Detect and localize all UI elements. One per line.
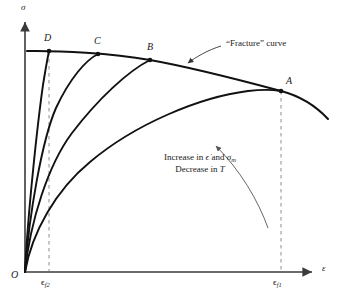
figure-canvas: [0, 0, 341, 302]
tick-label-epsilon-f1: ϵf1: [273, 278, 282, 287]
stress-strain-figure: σ ε O D C B A ϵf2 ϵf1 “Fracture” curve I…: [0, 0, 341, 302]
tick-label-epsilon-f2: ϵf2: [41, 278, 50, 287]
stress-strain-curve-a: [25, 90, 281, 272]
annotation-decrease-text: Decrease in: [175, 164, 219, 174]
origin-label: O: [11, 270, 18, 280]
fracture-curve-leader-line: [188, 46, 221, 63]
stress-strain-curve-c: [25, 54, 98, 272]
point-marker-d: [47, 49, 52, 54]
annotation-and-text: and: [209, 152, 227, 162]
point-label-a: A: [286, 76, 292, 86]
tick-label-epsilon-f1-subscript: f1: [277, 281, 282, 288]
fracture-curve: [27, 51, 328, 119]
fracture-curve-label: “Fracture” curve: [226, 39, 286, 48]
point-label-c: C: [94, 36, 101, 46]
stress-strain-curve-b: [25, 60, 150, 272]
point-marker-b: [148, 58, 153, 63]
mean-stress-subscript: m: [231, 156, 236, 163]
trend-annotation: Increase in ϵ̇ and σm Decrease in T: [140, 153, 260, 174]
y-axis-label: σ: [21, 3, 25, 12]
trend-annotation-line-2: Decrease in T: [140, 165, 260, 174]
temperature-symbol: T: [220, 164, 225, 174]
x-axis-label: ε: [322, 264, 326, 273]
tick-label-epsilon-f2-subscript: f2: [45, 281, 50, 288]
annotation-increase-text: Increase in: [164, 152, 205, 162]
trend-annotation-line-1: Increase in ϵ̇ and σm: [140, 153, 260, 162]
axes-group: [25, 22, 312, 272]
point-marker-c: [96, 52, 101, 57]
point-label-d: D: [44, 33, 51, 43]
point-label-b: B: [147, 42, 153, 52]
point-marker-a: [279, 89, 284, 94]
marked-points-group: [47, 49, 284, 94]
